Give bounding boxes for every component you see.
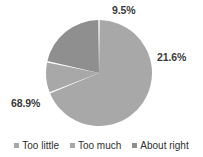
legend-label: Too little: [22, 140, 59, 151]
pie-slices: [46, 20, 152, 126]
chart-legend: Too little Too much About right: [0, 137, 203, 153]
pie-chart-canvas: [0, 0, 203, 133]
pie-data-label-too-little: 68.9%: [11, 97, 40, 109]
legend-label: Too much: [78, 140, 121, 151]
pie-chart: 68.9% 9.5% 21.6% Too little Too much Abo…: [0, 0, 203, 157]
legend-label: About right: [140, 140, 188, 151]
legend-swatch-icon: [14, 143, 19, 148]
legend-item-about-right[interactable]: About right: [132, 140, 188, 151]
pie-data-label-about-right: 21.6%: [157, 51, 186, 63]
pie-data-label-too-much: 9.5%: [112, 4, 136, 16]
legend-item-too-much[interactable]: Too much: [70, 140, 121, 151]
legend-item-too-little[interactable]: Too little: [14, 140, 59, 151]
legend-swatch-icon: [70, 143, 75, 148]
legend-swatch-icon: [132, 143, 137, 148]
